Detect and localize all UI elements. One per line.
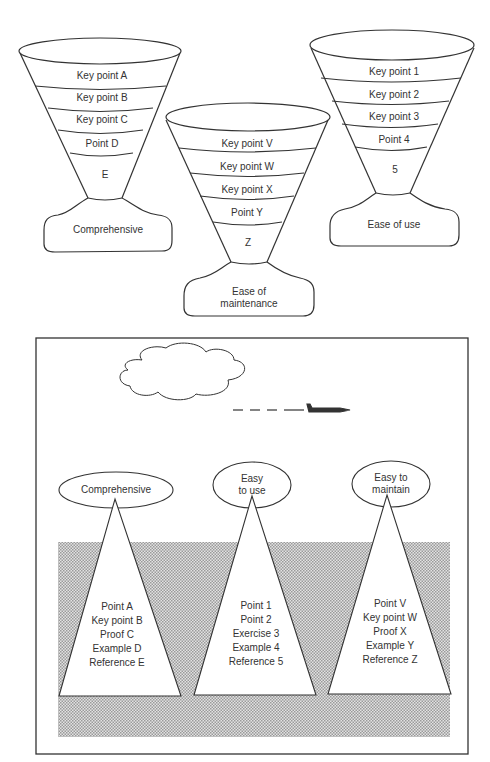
funnel-band-label: Point D	[86, 138, 119, 150]
funnel-band-label: 5	[392, 164, 398, 176]
funnel-band-label: Key point 3	[369, 111, 419, 123]
funnel-band-label: Key point C	[76, 114, 128, 126]
funnel-band-label: Key point 1	[369, 66, 419, 78]
iceberg-item: Reference Z	[362, 654, 417, 666]
iceberg-item: Point 1	[240, 600, 271, 612]
funnel-band-label: Key point A	[77, 70, 128, 82]
iceberg-item: Point 2	[240, 614, 271, 626]
funnel-band-label: Key point B	[76, 92, 127, 104]
tip-label-easy-to-maintain: Easy to maintain	[372, 472, 410, 496]
iceberg-item: Proof X	[373, 626, 406, 638]
iceberg-item: Example 4	[232, 642, 279, 654]
funnel-base-label: Ease of use	[368, 219, 421, 231]
funnel-band-label: Z	[245, 237, 251, 249]
iceberg-item: Example Y	[366, 640, 414, 652]
iceberg-item: Point A	[101, 601, 133, 613]
funnel-base-label: Ease of maintenance	[220, 286, 277, 310]
funnel-band-label: Key point 2	[369, 89, 419, 101]
iceberg-scene	[36, 338, 468, 754]
funnel-band-label: Key point W	[220, 161, 274, 173]
iceberg-item: Reference E	[89, 657, 145, 669]
funnel-band-label: Point 4	[378, 134, 409, 146]
iceberg-item: Key point W	[363, 612, 417, 624]
tip-label-easy-to-use: Easy to use	[238, 473, 265, 497]
iceberg-item: Example D	[93, 643, 142, 655]
iceberg-item: Proof C	[100, 629, 134, 641]
funnel-band-label: Key point X	[221, 184, 272, 196]
iceberg-item: Key point B	[91, 615, 142, 627]
funnel-band-label: Key point V	[221, 138, 272, 150]
iceberg-item: Point V	[374, 598, 406, 610]
funnel-base-label: Comprehensive	[73, 224, 143, 236]
funnel-band-label: Point Y	[231, 207, 263, 219]
funnel-band-label: E	[102, 169, 109, 181]
iceberg-item: Reference 5	[229, 656, 283, 668]
iceberg-item: Exercise 3	[233, 628, 280, 640]
tip-label-comprehensive: Comprehensive	[81, 484, 151, 496]
